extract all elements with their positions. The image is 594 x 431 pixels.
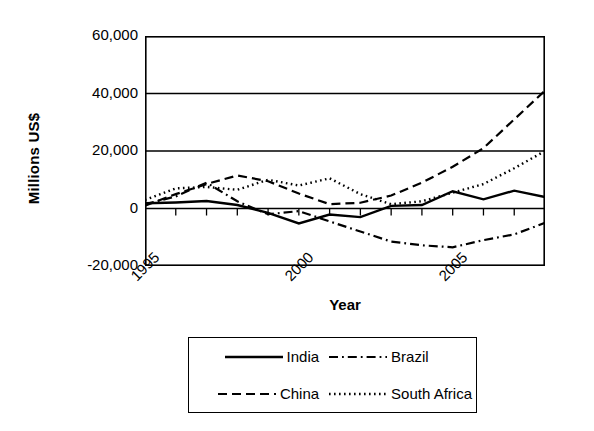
y-tick-label: 40,000	[42, 84, 138, 101]
chart-legend: IndiaBrazilChinaSouth Africa	[188, 337, 477, 413]
legend-label: Brazil	[391, 348, 429, 365]
legend-item-brazil[interactable]: Brazil	[323, 338, 476, 375]
legend-line-swatch	[223, 350, 285, 364]
line-chart-figure: Millions US$ 60,00040,00020,0000-20,000 …	[0, 0, 594, 431]
legend-item-india[interactable]: India	[189, 338, 323, 375]
legend-label: South Africa	[391, 385, 472, 402]
y-tick-label: 60,000	[42, 26, 138, 43]
legend-item-china[interactable]: China	[189, 375, 323, 412]
legend-item-south-africa[interactable]: South Africa	[323, 375, 476, 412]
y-axis-tick-labels: 60,00040,00020,0000-20,000	[38, 0, 138, 431]
legend-line-swatch	[327, 387, 389, 401]
y-tick-label: -20,000	[42, 256, 138, 273]
plot-area	[145, 36, 545, 266]
y-tick-label: 20,000	[42, 141, 138, 158]
legend-label: India	[287, 348, 320, 365]
legend-line-swatch	[327, 350, 389, 364]
x-axis-title: Year	[145, 296, 545, 313]
y-tick-label: 0	[42, 199, 138, 216]
legend-label: China	[280, 385, 319, 402]
plot-svg	[145, 36, 545, 266]
legend-line-swatch	[216, 387, 278, 401]
